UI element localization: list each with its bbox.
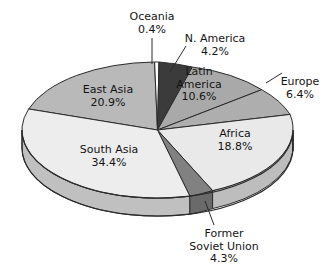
label-africa: Africa 18.8%	[193, 128, 277, 153]
pie-chart-figure: Oceania 0.4% N. America 4.2% Latin Ameri…	[0, 0, 331, 273]
label-n-america: N. America 4.2%	[155, 33, 275, 58]
label-europe-name: Europe	[281, 75, 320, 88]
label-africa-name: Africa	[219, 127, 250, 140]
label-europe-value: 6.4%	[271, 89, 329, 102]
label-south-asia-value: 34.4%	[54, 157, 164, 170]
label-former-soviet-union: Former Soviet Union 4.3%	[162, 228, 286, 266]
label-fsu-value: 4.3%	[162, 253, 286, 266]
label-east-asia-name: East Asia	[83, 83, 133, 96]
label-oceania-name: Oceania	[130, 10, 175, 23]
label-south-asia-name: South Asia	[80, 143, 139, 156]
label-latin-america: Latin America 10.6%	[154, 66, 244, 104]
label-n-america-name: N. America	[185, 32, 246, 45]
label-fsu-name-1: Former	[205, 227, 244, 240]
label-south-asia: South Asia 34.4%	[54, 144, 164, 169]
label-africa-value: 18.8%	[193, 141, 277, 154]
label-n-america-value: 4.2%	[155, 46, 275, 59]
label-latin-america-value: 10.6%	[154, 91, 244, 104]
label-europe: Europe 6.4%	[271, 76, 329, 101]
label-latin-america-name-1: Latin	[185, 65, 212, 78]
label-east-asia-value: 20.9%	[57, 97, 159, 110]
label-east-asia: East Asia 20.9%	[57, 84, 159, 109]
